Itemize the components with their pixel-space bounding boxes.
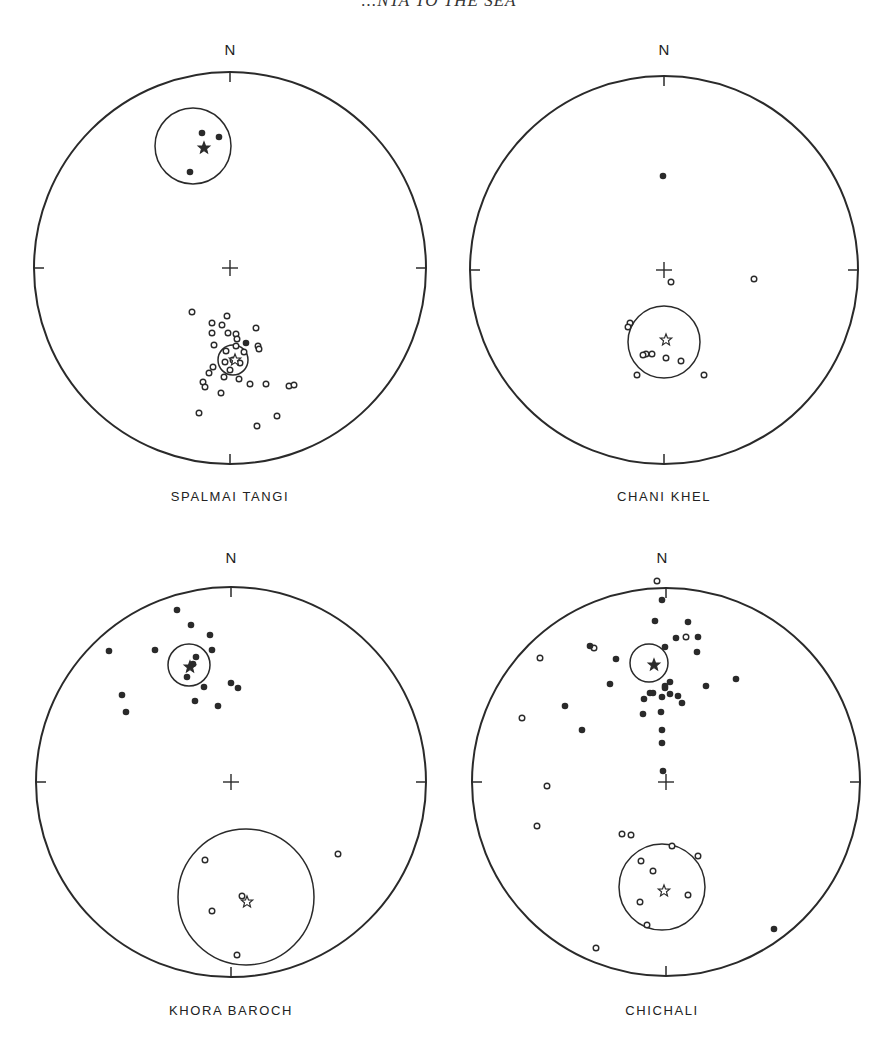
filled-point: [652, 618, 659, 625]
north-label: N: [657, 549, 668, 566]
filled-point: [199, 130, 206, 137]
open-point: [241, 349, 247, 355]
open-point: [751, 276, 757, 282]
filled-point: [209, 647, 216, 654]
open-point: [211, 342, 217, 348]
open-point: [634, 372, 640, 378]
open-point: [649, 351, 655, 357]
open-point: [218, 390, 224, 396]
confidence-circle-reversed: [619, 844, 705, 930]
open-point: [210, 364, 216, 370]
filled-point: [184, 674, 191, 681]
open-point: [663, 355, 669, 361]
filled-point: [659, 694, 666, 701]
filled-point: [667, 679, 674, 686]
open-point: [219, 322, 225, 328]
open-point: [222, 359, 228, 365]
filled-point: [695, 634, 702, 641]
open-point: [247, 381, 253, 387]
filled-point: [703, 683, 710, 690]
filled-point: [243, 340, 250, 347]
open-point: [335, 851, 341, 857]
filled-point: [650, 690, 657, 697]
open-point: [209, 908, 215, 914]
open-point: [189, 309, 195, 315]
filled-point: [192, 698, 199, 705]
mean-star-filled-icon: [198, 142, 209, 153]
open-point: [234, 952, 240, 958]
filled-point: [174, 607, 181, 614]
open-point: [263, 381, 269, 387]
open-point: [234, 336, 240, 342]
open-point: [202, 384, 208, 390]
open-point: [209, 320, 215, 326]
filled-point: [675, 693, 682, 700]
filled-point: [685, 619, 692, 626]
filled-point: [659, 597, 666, 604]
filled-point: [201, 684, 208, 691]
open-point: [224, 313, 230, 319]
open-point: [685, 892, 691, 898]
filled-point: [771, 926, 778, 933]
open-point: [678, 358, 684, 364]
open-point: [593, 945, 599, 951]
filled-point: [187, 169, 194, 176]
filled-point: [694, 649, 701, 656]
filled-point: [662, 644, 669, 651]
stereonet-spalmai-tangi: N SPALMAI TANGI: [34, 41, 426, 504]
open-point: [544, 783, 550, 789]
open-point: [683, 634, 689, 640]
open-point: [637, 899, 643, 905]
filled-point: [613, 656, 620, 663]
filled-point: [188, 622, 195, 629]
stereonet-chani-khel: N CHANI KHEL: [470, 41, 858, 504]
filled-point: [733, 676, 740, 683]
filled-point: [587, 643, 594, 650]
filled-point: [659, 740, 666, 747]
open-point: [669, 843, 675, 849]
open-point: [225, 330, 231, 336]
open-point: [695, 853, 701, 859]
filled-point: [235, 685, 242, 692]
open-point: [628, 832, 634, 838]
open-point: [221, 374, 227, 380]
open-point: [650, 868, 656, 874]
filled-point: [579, 727, 586, 734]
north-label: N: [226, 549, 237, 566]
filled-point: [228, 680, 235, 687]
mean-star-filled-icon: [648, 659, 659, 670]
open-point: [640, 352, 646, 358]
open-point: [254, 423, 260, 429]
filled-point: [106, 648, 113, 655]
open-point: [654, 578, 660, 584]
open-point: [227, 367, 233, 373]
filled-point: [119, 692, 126, 699]
filled-point: [607, 681, 614, 688]
filled-point: [216, 134, 223, 141]
open-point: [223, 348, 229, 354]
open-point: [644, 922, 650, 928]
north-label: N: [659, 41, 670, 58]
open-point: [209, 330, 215, 336]
plot-label: CHANI KHEL: [617, 489, 711, 504]
filled-point: [152, 647, 159, 654]
open-point: [196, 410, 202, 416]
filled-point: [673, 635, 680, 642]
open-point: [206, 370, 212, 376]
filled-point: [562, 703, 569, 710]
plot-label: SPALMAI TANGI: [171, 489, 289, 504]
stereonet-chichali: N CHICHALI: [472, 549, 860, 1018]
stereonet-khora-baroch: N KHORA BAROCH: [36, 549, 426, 1018]
open-point: [253, 325, 259, 331]
filled-point: [123, 709, 130, 716]
filled-point: [640, 711, 647, 718]
plot-label: CHICHALI: [625, 1003, 698, 1018]
open-point: [668, 279, 674, 285]
filled-point: [207, 632, 214, 639]
plot-label: KHORA BAROCH: [169, 1003, 293, 1018]
filled-point: [667, 691, 674, 698]
stereonet-figure: N SPALMAI TANGI N CHANI KHEL N KHORA BAR…: [0, 0, 878, 1051]
open-point: [236, 376, 242, 382]
filled-point: [660, 768, 667, 775]
open-point: [619, 831, 625, 837]
